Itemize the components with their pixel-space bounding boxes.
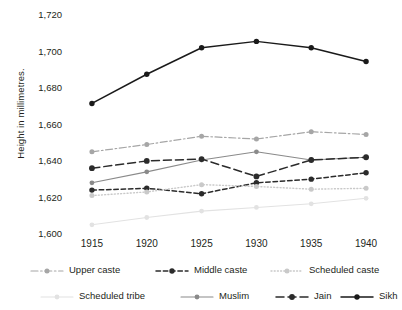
legend-item-jain[interactable]: Jain xyxy=(275,284,331,306)
data-point xyxy=(199,209,204,214)
x-axis-tick-1915: 1915 xyxy=(81,238,103,249)
data-point xyxy=(309,201,314,206)
data-point xyxy=(199,191,204,196)
legend-label: Sikh xyxy=(379,290,397,301)
series-line xyxy=(92,198,366,224)
legend-label: Scheduled caste xyxy=(309,264,379,275)
legend-item-muslim[interactable]: Muslim xyxy=(180,284,249,306)
data-point xyxy=(364,196,369,201)
data-point xyxy=(144,142,149,147)
data-point xyxy=(364,186,369,191)
chart-legend: Upper casteMiddle casteScheduled casteSc… xyxy=(0,258,402,310)
series-line xyxy=(92,41,366,103)
data-point xyxy=(144,215,149,220)
data-point xyxy=(254,149,259,154)
x-axis-tick-1935: 1935 xyxy=(300,238,322,249)
legend-label: Scheduled tribe xyxy=(79,290,145,301)
data-point xyxy=(308,157,314,163)
series-jain xyxy=(89,154,369,179)
series-line xyxy=(92,132,366,152)
data-point xyxy=(254,174,260,180)
legend-label: Muslim xyxy=(219,290,249,301)
data-point xyxy=(144,72,149,77)
x-axis-tick-1925: 1925 xyxy=(190,238,212,249)
x-axis-tick-1930: 1930 xyxy=(245,238,267,249)
x-axis-tick-labels: 191519201925193019351940 xyxy=(0,238,402,258)
series-scheduled-tribe xyxy=(90,196,369,227)
data-point xyxy=(89,187,94,192)
data-point xyxy=(144,158,150,164)
line-chart: Height in millimetres. 1,6001,6201,6401,… xyxy=(0,0,402,310)
series-scheduled-caste xyxy=(89,182,368,198)
legend-swatch-icon xyxy=(40,289,74,301)
legend-item-scheduled-tribe[interactable]: Scheduled tribe xyxy=(40,284,145,306)
legend-swatch-icon xyxy=(270,263,304,275)
legend-swatch-icon xyxy=(30,263,64,275)
legend-swatch-icon xyxy=(275,289,309,301)
data-point xyxy=(309,129,314,134)
x-axis-tick-1920: 1920 xyxy=(136,238,158,249)
data-point xyxy=(89,101,94,106)
data-point xyxy=(309,176,314,181)
legend-swatch-icon xyxy=(180,289,214,301)
data-point xyxy=(309,187,314,192)
legend-row: Upper casteMiddle casteScheduled caste xyxy=(0,258,402,280)
legend-label: Middle caste xyxy=(194,264,247,275)
data-point xyxy=(199,45,204,50)
data-point xyxy=(254,137,259,142)
series-sikh xyxy=(89,39,369,106)
data-point xyxy=(89,165,95,171)
data-point xyxy=(199,182,204,187)
x-axis-tick-1940: 1940 xyxy=(355,238,377,249)
data-point xyxy=(309,45,314,50)
series-upper-caste xyxy=(89,129,368,154)
data-point xyxy=(89,193,94,198)
data-point xyxy=(363,170,368,175)
data-point xyxy=(254,205,259,210)
data-point xyxy=(144,169,149,174)
legend-item-upper-caste[interactable]: Upper caste xyxy=(30,258,120,280)
legend-row: Scheduled tribeMuslimJainSikh xyxy=(0,284,402,306)
legend-item-scheduled-caste[interactable]: Scheduled caste xyxy=(270,258,379,280)
data-point xyxy=(199,156,205,162)
data-point xyxy=(90,222,95,227)
data-point xyxy=(199,134,204,139)
data-point xyxy=(89,149,94,154)
data-point xyxy=(254,39,259,44)
legend-item-middle-caste[interactable]: Middle caste xyxy=(155,258,247,280)
legend-swatch-icon xyxy=(340,289,374,301)
data-point xyxy=(363,59,368,64)
data-point xyxy=(254,184,259,189)
series-line xyxy=(92,157,366,176)
legend-item-sikh[interactable]: Sikh xyxy=(340,284,397,306)
legend-swatch-icon xyxy=(155,263,189,275)
data-point xyxy=(144,189,149,194)
legend-label: Jain xyxy=(314,290,331,301)
data-point xyxy=(363,154,369,160)
data-point xyxy=(364,132,369,137)
series-line xyxy=(92,185,366,196)
legend-label: Upper caste xyxy=(69,264,120,275)
series-line xyxy=(92,173,366,194)
data-point xyxy=(90,180,95,185)
